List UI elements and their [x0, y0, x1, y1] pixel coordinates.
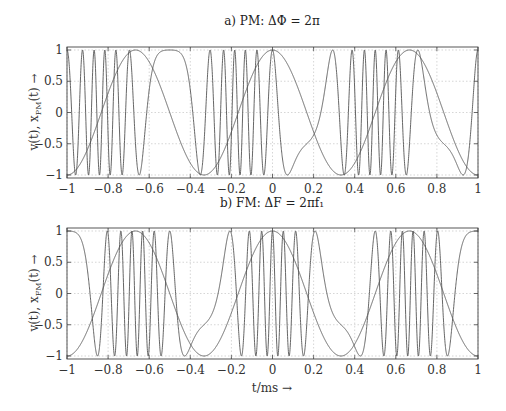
y-tick-label: −1 — [45, 168, 63, 182]
x-tick-label: 1 — [474, 182, 482, 196]
x-tick-label: 0.2 — [304, 363, 323, 377]
y-tick-label: 0.5 — [44, 74, 63, 88]
x-tick-label: −0.4 — [176, 182, 206, 196]
x-tick-label: 0.6 — [386, 363, 405, 377]
panel-b-frame — [67, 228, 478, 359]
x-tick-label: 0.4 — [345, 363, 364, 377]
x-tick-label: 0.8 — [427, 363, 446, 377]
panel-b-grid — [67, 228, 478, 359]
figure: a) PM: ΔΦ = 2π −1−0.500.51 −1−0.8−0.6−0.… — [0, 0, 506, 411]
y-tick-label: 0 — [55, 287, 63, 301]
panel-a-ylabel: v(t), xPM(t) → — [27, 73, 43, 151]
x-tick-label: 0.2 — [304, 182, 323, 196]
panel-a-grid — [67, 47, 478, 178]
panel-a-title: a) PM: ΔΦ = 2π — [224, 14, 320, 28]
x-tick-label: −0.6 — [135, 182, 164, 196]
panel-a-frame — [67, 47, 478, 178]
panel-b-ylabel: v(t), xFM(t) → — [27, 254, 43, 332]
x-tick-label: −0.4 — [176, 363, 206, 377]
x-tick-label: 0 — [269, 363, 277, 377]
y-tick-label: 0.5 — [44, 255, 63, 269]
x-tick-label: −0.2 — [217, 363, 246, 377]
panel-a-x-ticks: −1−0.8−0.6−0.4−0.200.20.40.60.81 — [58, 182, 482, 196]
x-tick-label: 0.6 — [386, 182, 405, 196]
y-tick-label: 1 — [55, 43, 63, 57]
y-tick-label: 1 — [55, 224, 63, 238]
x-tick-label: −1 — [58, 363, 76, 377]
panel-b-title: b) FM: ΔF = 2πf₁ — [220, 196, 324, 210]
x-tick-label: −0.8 — [94, 182, 123, 196]
x-tick-label: −0.2 — [217, 182, 246, 196]
x-tick-label: 0.8 — [427, 182, 446, 196]
x-tick-label: −0.8 — [94, 363, 123, 377]
panel-b-x-ticks: −1−0.8−0.6−0.4−0.200.20.40.60.81 — [58, 363, 482, 377]
x-tick-label: −1 — [58, 182, 76, 196]
x-axis-label: t/ms → — [252, 381, 292, 395]
y-tick-label: 0 — [55, 106, 63, 120]
x-tick-label: −0.6 — [135, 363, 164, 377]
y-tick-label: −1 — [45, 349, 63, 363]
panel-b-fm: b) FM: ΔF = 2πf₁ −1−0.500.51 −1−0.8−0.6−… — [27, 196, 482, 377]
x-tick-label: 0.4 — [345, 182, 364, 196]
x-tick-label: 0 — [269, 182, 277, 196]
x-tick-label: 1 — [474, 363, 482, 377]
panel-a-pm: a) PM: ΔΦ = 2π −1−0.500.51 −1−0.8−0.6−0.… — [27, 14, 482, 196]
